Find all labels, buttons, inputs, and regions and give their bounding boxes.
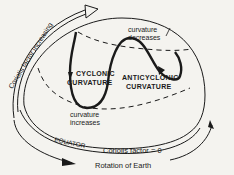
rotation-arrow-right xyxy=(170,125,212,160)
cyclonic-label-line2: CURVATURE xyxy=(67,79,112,86)
curvature-decreases-line2: decreases xyxy=(128,34,160,41)
cyclonic-label-line1: CYCLONIC xyxy=(76,70,115,77)
curvature-increases-line2: increases xyxy=(70,119,100,126)
pointer-line xyxy=(166,28,170,36)
arrowhead-icon xyxy=(85,5,98,18)
rotation-of-earth-label: Rotation of Earth xyxy=(95,162,151,170)
curvature-increases-line1: curvature xyxy=(70,111,99,118)
anticyclonic-label-line1: ANTICYCLONIC xyxy=(122,74,179,81)
rotation-arrowhead-right-icon xyxy=(208,120,214,129)
coriolis-zero-label: Coriolis factor = 0 xyxy=(103,147,162,155)
rotation-arrowhead-icon xyxy=(62,158,76,166)
anticyclonic-label-line2: CURVATURE xyxy=(126,83,171,90)
hemisphere-outline xyxy=(24,18,205,149)
curvature-decreases-line1: curvature xyxy=(128,26,157,33)
